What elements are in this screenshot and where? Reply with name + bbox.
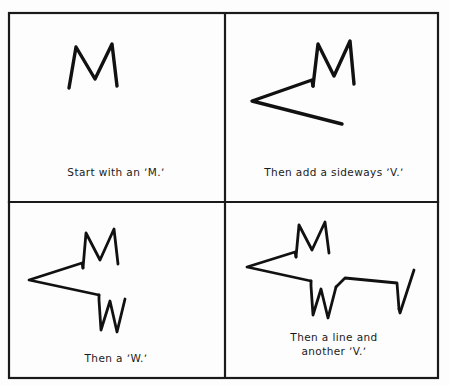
panel-2-caption: Then add a sideways ʼV.ʼ <box>230 166 438 180</box>
panel-1-caption: Start with an ʼM.ʼ <box>12 166 220 180</box>
tutorial-sheet: Start with an ʼM.ʼ Then add a sideways ʼ… <box>0 0 449 385</box>
panel-4-caption: Then a line and another ʼV.ʼ <box>230 331 438 358</box>
panel-3-caption: Then a ʼW.ʼ <box>12 352 220 366</box>
